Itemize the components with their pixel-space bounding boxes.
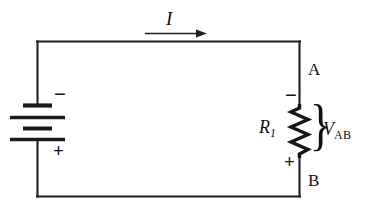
resistor-positive-sign: +	[284, 152, 295, 171]
resistor-label-symbol: R	[259, 117, 270, 137]
voltage-label-symbol: V	[323, 119, 334, 139]
resistor-label-subscript: 1	[270, 126, 276, 140]
circuit-diagram-canvas: I A B − + − + R1 } VAB	[0, 0, 382, 221]
battery-positive-sign: +	[53, 141, 64, 160]
voltage-label-subscript: AB	[334, 128, 351, 142]
resistor-negative-sign: −	[285, 85, 297, 106]
resistor-label: R1	[259, 118, 276, 136]
current-arrow	[145, 30, 207, 38]
current-label: I	[166, 9, 172, 28]
node-label-a: A	[308, 61, 320, 78]
voltage-label: VAB	[323, 120, 351, 138]
battery-negative-sign: −	[54, 84, 66, 105]
resistor-zigzag	[291, 104, 308, 158]
node-label-b: B	[308, 172, 320, 189]
